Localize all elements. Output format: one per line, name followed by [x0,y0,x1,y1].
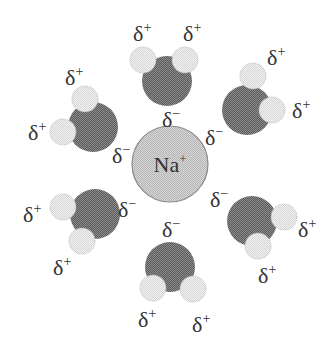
hydrogen-atom [245,233,271,259]
partial-positive-label-bottom-2: δ+ [192,311,210,337]
hydrogen-atom [69,228,95,254]
partial-negative-label-bottom: δ− [162,216,180,242]
hydrogen-atom [130,47,156,73]
partial-negative-label-upper-right: δ− [205,124,223,150]
hydrogen-atom [72,86,98,112]
oxygen-atom [68,102,118,152]
partial-positive-label-upper-left-1: δ+ [65,64,83,90]
partial-positive-label-upper-right-2: δ+ [292,97,310,123]
hydration-diagram: Na+ δ−δ+δ+δ−δ+δ+δ−δ+δ+δ−δ+δ+δ−δ+δ+δ−δ+δ+ [0,0,335,354]
partial-positive-label-bottom-1: δ+ [138,306,156,332]
water-molecule-top [130,47,198,106]
hydrogen-atom [180,276,206,302]
partial-positive-label-lower-right-2: δ+ [258,262,276,288]
hydrogen-atom [259,97,285,123]
water-molecule-lower-left [50,189,120,254]
partial-positive-label-top-1: δ+ [133,20,151,46]
water-molecule-bottom [140,242,206,302]
diagram-canvas: Na+ δ−δ+δ+δ−δ+δ+δ−δ+δ+δ−δ+δ+δ−δ+δ+δ−δ+δ+ [0,0,335,354]
partial-positive-label-upper-left-2: δ+ [28,119,46,145]
hydrogen-atom [172,47,198,73]
hydrogen-atom [271,204,297,230]
hydrogen-atom [240,63,266,89]
hydrogen-atom [50,194,76,220]
hydrogen-atom [50,119,76,145]
partial-negative-label-upper-left: δ− [112,142,130,168]
partial-positive-label-upper-right-1: δ+ [267,44,285,70]
water-molecule-upper-left [50,86,118,152]
partial-positive-label-lower-right-1: δ+ [298,216,316,242]
water-molecule-upper-right [222,63,285,135]
partial-negative-label-lower-left: δ− [118,196,136,222]
water-molecule-lower-right [227,196,297,259]
partial-negative-label-lower-right: δ− [210,186,228,212]
partial-positive-label-lower-left-2: δ+ [53,254,71,280]
partial-positive-label-lower-left-1: δ+ [23,201,41,227]
hydrogen-atom [140,275,166,301]
sodium-ion: Na+ [132,126,208,202]
partial-positive-label-top-2: δ+ [183,20,201,46]
